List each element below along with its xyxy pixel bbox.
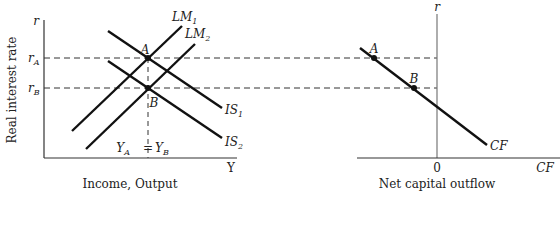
lm2-curve [86,44,195,149]
right-panel-cf: r A B CF 0 CF Net capital outflow [357,0,560,191]
right-r-symbol: r [434,0,441,14]
ya-label: YA [116,141,130,157]
left-x-axis-symbol: Y [226,161,236,175]
point-b-left [145,85,151,91]
left-panel-islm: Real interest rate r rA rB LM1 LM2 IS1 I… [5,10,437,191]
rb-label: rB [28,81,40,97]
left-x-axis-title: Income, Output [82,177,177,191]
point-b-left-label: B [149,96,159,110]
equals-sign: = [143,141,153,155]
islm-cf-diagram: Real interest rate r rA rB LM1 LM2 IS1 I… [0,0,560,232]
left-y-axis-title: Real interest rate [5,37,19,144]
point-a-right-label: A [369,42,379,56]
lm1-label: LM1 [171,10,197,26]
lm1-curve [72,26,182,131]
is2-label: IS2 [224,135,243,151]
right-x-axis-title: Net capital outflow [379,177,496,191]
is1-label: IS1 [224,103,243,119]
cf-curve [360,48,487,145]
right-x-axis-symbol: CF [536,161,554,175]
ra-label: rA [28,51,40,67]
point-a-left-label: A [140,43,150,57]
cf-curve-label: CF [490,139,508,153]
point-b-right-label: B [409,72,419,86]
origin-label: 0 [433,161,441,175]
lm2-label: LM2 [184,27,210,43]
left-r-symbol: r [33,14,40,28]
yb-label: YB [155,141,169,157]
